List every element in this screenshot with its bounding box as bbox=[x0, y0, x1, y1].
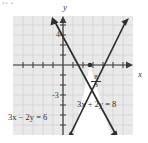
equation-label-line-1: 3x − 2y = 6 bbox=[8, 113, 47, 122]
coordinate-graph-figure: ▪▪ ▪ bbox=[0, 0, 148, 143]
y-axis-label: y bbox=[63, 3, 67, 12]
clipped-caption-text: ▪▪ ▪ bbox=[2, 0, 32, 5]
equation-label-line-2: 3x + 2y = 8 bbox=[77, 100, 116, 109]
fraction-denominator: 3 bbox=[90, 82, 102, 89]
intersection-fraction-label: 8 3 bbox=[90, 74, 102, 89]
intersection-point bbox=[88, 63, 93, 68]
fraction-numerator: 8 bbox=[90, 74, 102, 81]
y-tick-label-minus-3: -3 bbox=[52, 92, 59, 100]
x-axis-label: x bbox=[138, 70, 142, 79]
y-tick-label-4: 4 bbox=[56, 31, 60, 39]
